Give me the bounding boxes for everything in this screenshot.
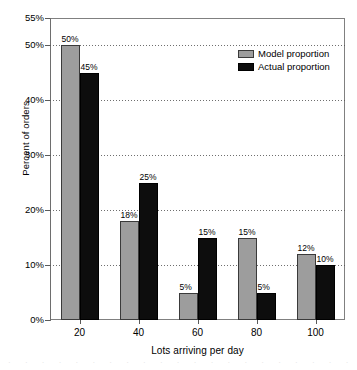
x-axis-title: Lots arriving per day (50, 345, 345, 356)
bar-model-100 (297, 254, 316, 320)
gridline (50, 45, 345, 46)
y-axis-tick-mark (45, 100, 50, 101)
x-axis-tick-mark (257, 320, 258, 324)
legend-label-model: Model proportion (258, 49, 329, 59)
x-axis-tick-mark (198, 320, 199, 324)
x-axis-tick-label: 80 (237, 327, 277, 338)
bar-value-label: 15% (199, 228, 216, 237)
scan-artifact-text: · · · · · · · · · · · · · · · · · · · · … (8, 358, 353, 368)
y-axis-tick-label: 55% (4, 13, 44, 23)
bar-value-label: 15% (239, 228, 256, 237)
bar-value-label: 5% (180, 283, 192, 292)
bar-value-label: 5% (258, 283, 270, 292)
bar-model-40 (120, 221, 139, 320)
bar-actual-80 (257, 293, 276, 320)
y-axis-tick-mark (45, 265, 50, 266)
bar-chart-figure: Percent of orders 0%10%20%30%40%50%55% 5… (0, 0, 357, 370)
bar-actual-100 (316, 265, 335, 320)
bar-model-80 (238, 238, 257, 320)
y-axis-tick-mark (45, 18, 50, 19)
bar-actual-20 (80, 73, 99, 320)
y-axis-tick-mark (45, 210, 50, 211)
y-axis-tick-mark (45, 320, 50, 321)
legend-swatch-actual-icon (238, 63, 254, 71)
legend-label-actual: Actual proportion (258, 62, 330, 72)
y-axis-tick-label: 30% (4, 150, 44, 160)
y-axis-tick-label: 40% (4, 95, 44, 105)
legend-item-model: Model proportion (238, 48, 342, 60)
x-axis-tick-label: 60 (178, 327, 218, 338)
bar-value-label: 50% (62, 35, 79, 44)
bar-actual-60 (198, 238, 217, 320)
x-axis-tick-mark (139, 320, 140, 324)
x-axis-tick-label: 100 (296, 327, 336, 338)
x-axis-tick-label: 20 (60, 327, 100, 338)
y-axis-tick-labels: 0%10%20%30%40%50%55% (0, 0, 44, 370)
y-axis-tick-mark (45, 155, 50, 156)
bar-actual-40 (139, 183, 158, 320)
y-axis-tick-label: 50% (4, 40, 44, 50)
bar-value-label: 45% (81, 63, 98, 72)
bar-model-60 (179, 293, 198, 320)
legend-item-actual: Actual proportion (238, 61, 342, 73)
bar-model-20 (61, 45, 80, 320)
y-axis-tick-mark (45, 45, 50, 46)
y-axis-tick-label: 20% (4, 205, 44, 215)
bar-value-label: 12% (298, 244, 315, 253)
bar-value-label: 18% (121, 211, 138, 220)
y-axis-tick-label: 10% (4, 260, 44, 270)
x-axis-tick-mark (316, 320, 317, 324)
y-axis-tick-label: 0% (4, 315, 44, 325)
chart-legend: Model proportion Actual proportion (238, 48, 342, 74)
x-axis-tick-label: 40 (119, 327, 159, 338)
legend-swatch-model-icon (238, 50, 254, 58)
x-axis-tick-mark (80, 320, 81, 324)
bar-value-label: 25% (140, 173, 157, 182)
bar-value-label: 10% (317, 255, 334, 264)
